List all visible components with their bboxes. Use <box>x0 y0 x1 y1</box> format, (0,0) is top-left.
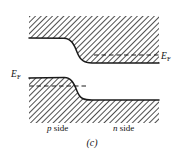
fermi-level-label-upper-subscript: F <box>167 55 171 62</box>
panel-caption: (c) <box>0 138 184 148</box>
upper-band-group <box>29 16 159 64</box>
fermi-level-label-lower-subscript: F <box>17 73 21 80</box>
band-diagram-canvas <box>0 0 184 156</box>
fermi-level-label-upper: EF <box>161 52 171 62</box>
lower-band-group <box>29 77 159 124</box>
p-side-label-text: side <box>52 123 69 133</box>
n-side-label: n side <box>113 124 134 133</box>
fermi-level-label-lower: EF <box>11 70 21 80</box>
pn-junction-band-diagram: EF EF p side n side (c) <box>0 0 184 156</box>
fermi-level-label-upper-text: E <box>161 51 167 61</box>
fermi-level-label-lower-text: E <box>11 69 17 79</box>
p-side-label: p side <box>47 124 68 133</box>
n-side-label-text: side <box>118 123 135 133</box>
upper-band-hatch-fill <box>29 16 159 64</box>
